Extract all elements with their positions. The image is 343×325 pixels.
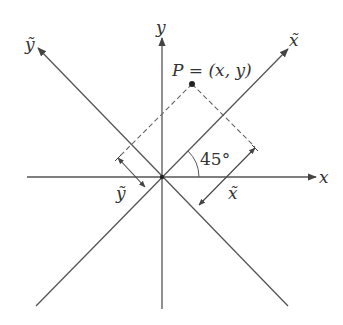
dashed-projection-left	[118, 84, 192, 158]
x-axis-label: x	[319, 167, 329, 187]
x-tilde-measure-label: x̃	[228, 183, 238, 203]
angle-arc	[188, 151, 199, 177]
origin-point	[160, 175, 164, 179]
y-tilde-axis-label: ỹ	[24, 34, 35, 54]
point-p	[189, 81, 195, 87]
y-tilde-measure-label: ỹ	[115, 183, 126, 203]
rotated-axes-diagram: x y x̃ ỹ P = (x, y) 45° x̃ ỹ	[0, 0, 343, 325]
angle-label: 45°	[200, 149, 230, 169]
diagram-canvas: x y x̃ ỹ P = (x, y) 45° x̃ ỹ	[0, 0, 343, 325]
x-tilde-axis-label: x̃	[289, 30, 299, 50]
point-p-label: P = (x, y)	[171, 60, 252, 80]
y-axis-label: y	[155, 17, 166, 37]
